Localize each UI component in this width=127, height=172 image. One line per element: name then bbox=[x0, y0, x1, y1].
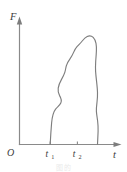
y-axis-label: F bbox=[9, 11, 17, 22]
tick-label-t1-subscript: 1 bbox=[51, 153, 54, 160]
force-time-figure: F t O t 1 t 2 图 的 bbox=[0, 0, 127, 172]
figure-canvas: F t O t 1 t 2 bbox=[0, 0, 127, 172]
x-axis-arrow-icon bbox=[114, 142, 122, 147]
force-pulse-curve bbox=[50, 36, 98, 144]
figure-caption: 图 的 bbox=[0, 163, 127, 172]
tick-label-t1: t 1 bbox=[46, 149, 55, 160]
y-axis-arrow-icon bbox=[17, 17, 22, 25]
origin-label: O bbox=[7, 147, 14, 158]
tick-label-t2-subscript: 2 bbox=[78, 153, 81, 160]
tick-label-t2-base: t bbox=[73, 149, 76, 159]
tick-label-t2: t 2 bbox=[73, 149, 82, 160]
tick-label-t1-base: t bbox=[46, 149, 49, 159]
x-axis-label: t bbox=[113, 149, 117, 160]
